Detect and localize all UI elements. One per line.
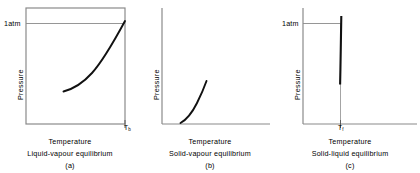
- panel-b-caption: Solid-vapour equilibrium: [140, 149, 280, 158]
- panel-c-caption: Solid-liquid equilibrium: [280, 149, 420, 158]
- panel-a-y-tick-label: 1atm: [4, 19, 21, 28]
- panel-c-letter: (c): [280, 161, 420, 170]
- panel-c-y-tick-label: 1atm: [282, 19, 299, 28]
- panel-a-caption: Liquid-vapour equilibrium: [0, 149, 140, 158]
- panel-a-curve: [64, 21, 126, 92]
- panel-c-curve: [340, 16, 341, 85]
- panel-b-y-axis-title: Pressure: [152, 69, 161, 100]
- panel-b: Pressure Temperature Solid-vapour equili…: [140, 0, 280, 173]
- panel-a-y-axis-title: Pressure: [16, 69, 25, 100]
- panel-a-x-axis-title: Temperature: [0, 137, 140, 146]
- panel-a-x-point-subscript: b: [128, 127, 131, 132]
- panel-b-letter: (b): [140, 161, 280, 170]
- panel-c-x-point-label: Tf: [338, 124, 344, 131]
- panel-c: 1atm Pressure Tf Temperature Solid-liqui…: [280, 0, 420, 173]
- panel-a-frame: [26, 8, 125, 124]
- panel-c-x-axis-title: Temperature: [280, 137, 420, 146]
- panel-a: 1atm Pressure Tb Temperature Liquid-vapo…: [0, 0, 140, 173]
- panel-b-curve: [181, 81, 207, 123]
- panel-b-plot: [140, 0, 280, 173]
- panel-a-letter: (a): [0, 161, 140, 170]
- panel-c-y-axis-title: Pressure: [293, 69, 302, 100]
- panel-b-x-axis-title: Temperature: [140, 137, 280, 146]
- panel-a-x-point-label: Tb: [124, 124, 131, 131]
- panel-c-x-point-subscript: f: [342, 127, 343, 132]
- phase-equilibrium-figure: 1atm Pressure Tb Temperature Liquid-vapo…: [0, 0, 420, 173]
